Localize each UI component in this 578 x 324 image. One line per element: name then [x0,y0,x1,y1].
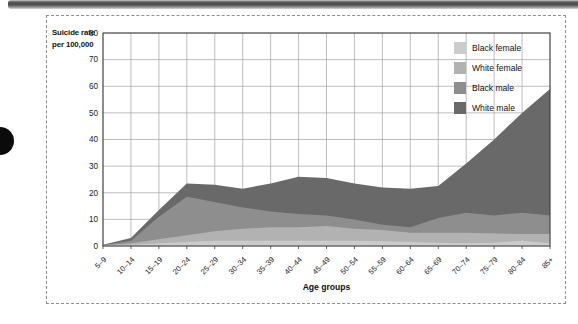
x-tick-label: 80–84 [506,255,527,276]
y-tick-label: 80 [89,29,99,38]
legend-swatch [454,102,466,114]
legend-label: Black male [472,83,514,93]
legend-swatch [454,82,466,94]
x-tick-label: 40–44 [283,255,304,276]
y-tick-label: 70 [89,55,99,64]
y-tick-label: 10 [89,215,99,224]
y-tick-label: 40 [89,135,99,144]
legend-swatch [454,62,466,74]
y-tick-label: 60 [89,82,99,91]
legend-swatch [454,42,466,54]
x-tick-label: 35–39 [255,255,276,276]
x-tick-label: 70–74 [450,255,471,276]
x-tick-label: 60–64 [394,255,415,276]
y-tick-label: 50 [89,109,99,118]
x-tick-label: 5–9 [93,255,108,270]
legend-label: White female [472,63,522,73]
legend-item: White female [454,58,522,78]
chart-legend: Black femaleWhite femaleBlack maleWhite … [454,38,522,118]
textbook-page: { "figure": { "ylabel_line1": "Suicide r… [0,0,578,324]
x-tick-label: 65–69 [422,255,443,276]
legend-label: White male [472,103,515,113]
x-tick-label: 50–54 [339,255,360,276]
x-tick-label: 75–79 [478,255,499,276]
legend-item: Black male [454,78,522,98]
x-tick-label: 20–24 [171,255,192,276]
x-tick-label: 15–19 [143,255,164,276]
x-tick-label: 85+ [540,255,556,271]
y-tick-label: 20 [89,189,99,198]
x-tick-label: 10–14 [115,255,136,276]
x-tick-label: 55–59 [366,255,387,276]
x-tick-label: 25–29 [199,255,220,276]
y-tick-label: 30 [89,162,99,171]
legend-label: Black female [472,43,521,53]
y-tick-label: 0 [93,242,98,251]
legend-item: Black female [454,38,522,58]
legend-item: White male [454,98,522,118]
x-tick-label: 30–34 [227,255,248,276]
x-axis-title: Age groups [103,282,550,292]
x-tick-label: 45–49 [311,255,332,276]
